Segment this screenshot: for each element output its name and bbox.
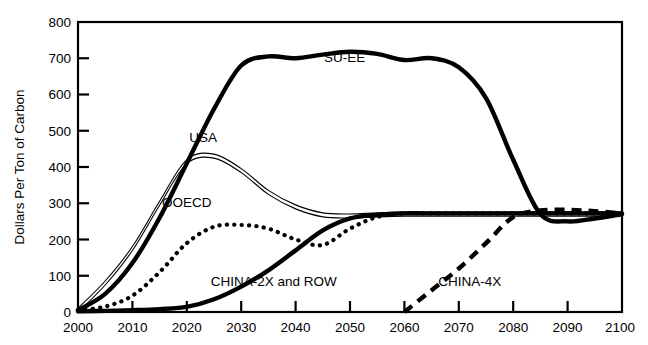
x-tick-label-2100: 2100 — [605, 320, 635, 335]
x-tick-label-2090: 2090 — [553, 320, 583, 335]
y-tick-label-700: 700 — [48, 51, 71, 66]
series-label-usa: USA — [189, 130, 217, 145]
y-tick-label-400: 400 — [48, 160, 71, 175]
y-tick-label-800: 800 — [48, 15, 71, 30]
x-tick-label-2010: 2010 — [117, 320, 147, 335]
y-tick-label-100: 100 — [48, 269, 71, 284]
x-tick-label-2020: 2020 — [172, 320, 202, 335]
series-label-su-ee: SU-EE — [324, 50, 365, 65]
y-tick-label-300: 300 — [48, 196, 71, 211]
x-tick-label-2080: 2080 — [498, 320, 528, 335]
x-tick-label-2070: 2070 — [444, 320, 474, 335]
x-tick-label-2000: 2000 — [63, 320, 93, 335]
x-tick-label-2050: 2050 — [335, 320, 365, 335]
y-tick-label-600: 600 — [48, 87, 71, 102]
chart-container: 800 700 600 500 400 300 200 100 0 2000 2… — [0, 0, 648, 345]
y-axis-title: Dollars Per Ton of Carbon — [12, 89, 27, 244]
y-tick-label-0: 0 — [63, 305, 71, 320]
y-tick-label-500: 500 — [48, 124, 71, 139]
series-label-ooecd: OOECD — [162, 195, 212, 210]
chart-svg: 800 700 600 500 400 300 200 100 0 2000 2… — [0, 0, 648, 345]
series-label-china-4x: CHINA-4X — [438, 274, 501, 289]
y-tick-label-200: 200 — [48, 233, 71, 248]
series-label-china-2x-and-row: CHINA-2X and ROW — [211, 274, 337, 289]
x-tick-label-2040: 2040 — [281, 320, 311, 335]
x-tick-label-2030: 2030 — [226, 320, 256, 335]
x-tick-label-2060: 2060 — [389, 320, 419, 335]
